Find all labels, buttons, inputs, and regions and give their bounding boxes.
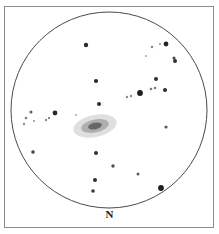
star-marker [25,117,28,120]
star-marker [159,43,161,45]
central-galaxy [71,111,119,142]
star-marker [126,96,128,98]
star-marker [48,117,50,119]
star-marker [111,164,114,167]
star-marker [173,59,177,63]
star-marker [163,88,167,92]
star-marker [31,150,35,154]
star-marker [164,125,167,128]
star-marker [137,90,143,96]
star-field-canvas [0,0,219,234]
star-marker [145,55,147,57]
field-of-view-circle [11,12,207,208]
star-marker [137,173,140,176]
star-marker [154,77,158,81]
star-marker [158,185,164,191]
star-marker [164,42,169,47]
star-marker [45,119,47,121]
star-marker [84,43,88,47]
star-marker [94,79,98,83]
fov-circle [11,12,207,208]
orientation-label-north: N [0,209,219,220]
star-marker [33,120,35,122]
star-marker [151,46,154,49]
star-marker [130,95,132,97]
star-marker [94,151,98,155]
star-marker [23,123,25,125]
star-marker [75,114,77,116]
star-marker [97,102,101,106]
eyepiece-sketch-figure: N [0,0,219,234]
star-marker [154,87,157,90]
star-marker [150,88,153,91]
star-marker [93,178,97,182]
star-marker [91,189,95,193]
star-marker [53,111,58,116]
star-marker [30,111,33,114]
